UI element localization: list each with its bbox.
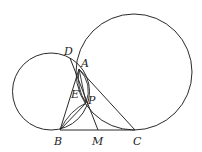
label-e: E [70, 88, 79, 101]
label-b: B [53, 135, 62, 148]
right-circle [76, 14, 192, 130]
label-d: D [63, 45, 73, 58]
label-m: M [91, 135, 104, 148]
label-a: A [80, 57, 89, 70]
geometry-diagram: D A E P B M C [0, 0, 202, 152]
label-c: C [133, 135, 142, 148]
label-p: P [87, 94, 96, 107]
